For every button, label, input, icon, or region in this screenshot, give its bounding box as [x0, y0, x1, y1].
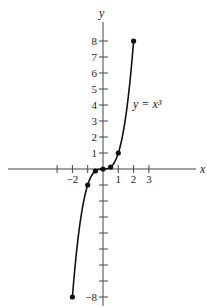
- y-tick-label: 6: [92, 67, 98, 79]
- x-axis-label: x: [199, 162, 206, 176]
- x-tick-label: 2: [131, 173, 137, 185]
- function-annotation: y = x³: [132, 97, 162, 111]
- y-tick-label: 5: [92, 83, 98, 95]
- y-tick-label: 2: [92, 131, 98, 143]
- data-point: [100, 166, 105, 171]
- data-point: [116, 150, 121, 155]
- labels: x y y = x³: [98, 6, 206, 176]
- y-tick-label: 1: [92, 147, 98, 159]
- y-axis-label: y: [98, 6, 105, 20]
- data-point: [108, 164, 113, 169]
- y-tick-label: 4: [92, 99, 98, 111]
- y-tick-label: 7: [92, 51, 98, 63]
- y-tick-label: 3: [92, 115, 98, 127]
- cubic-function-chart: −212387654321−8 x y y = x³: [0, 0, 207, 308]
- x-tick-label: 1: [116, 173, 122, 185]
- axes: [8, 22, 196, 306]
- y-tick-label: 8: [92, 35, 98, 47]
- x-tick-label: 3: [146, 173, 152, 185]
- data-point: [131, 38, 136, 43]
- data-point: [85, 182, 90, 187]
- data-point: [93, 168, 98, 173]
- data-point: [70, 294, 75, 299]
- y-tick-label: −8: [85, 291, 97, 303]
- x-tick-label: −2: [67, 173, 79, 185]
